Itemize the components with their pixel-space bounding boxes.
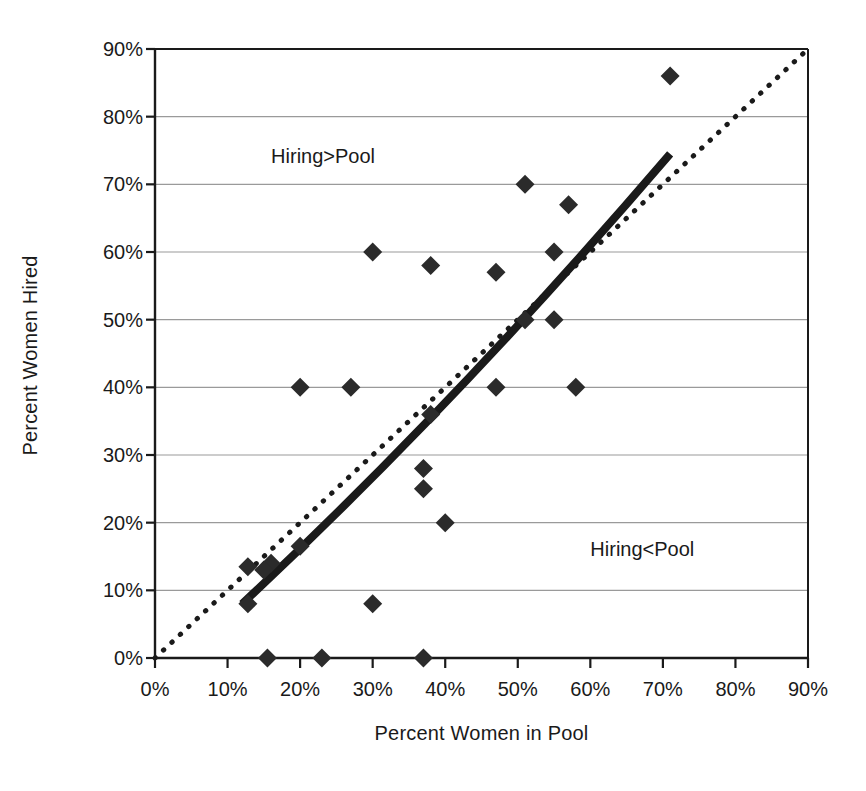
data-point-marker (312, 649, 331, 668)
plot-area (0, 0, 866, 791)
data-points (238, 67, 679, 668)
data-point-marker (238, 557, 257, 576)
data-point-marker (414, 649, 433, 668)
data-point-marker (363, 594, 382, 613)
data-point-marker (559, 195, 578, 214)
data-point-marker (414, 479, 433, 498)
gridlines (155, 49, 808, 590)
scatter-chart: Percent Women Hired Percent Women in Poo… (0, 0, 866, 791)
data-point-marker (414, 459, 433, 478)
data-point-marker (363, 243, 382, 262)
data-point-marker (566, 378, 585, 397)
data-point-marker (516, 175, 535, 194)
data-point-marker (291, 378, 310, 397)
data-point-marker (258, 649, 277, 668)
data-point-marker (487, 378, 506, 397)
data-point-marker (487, 263, 506, 282)
data-point-marker (661, 67, 680, 86)
data-point-marker (545, 310, 564, 329)
data-point-marker (341, 378, 360, 397)
data-point-marker (436, 513, 455, 532)
data-point-marker (421, 256, 440, 275)
trend-line (242, 154, 670, 604)
data-point-marker (545, 243, 564, 262)
